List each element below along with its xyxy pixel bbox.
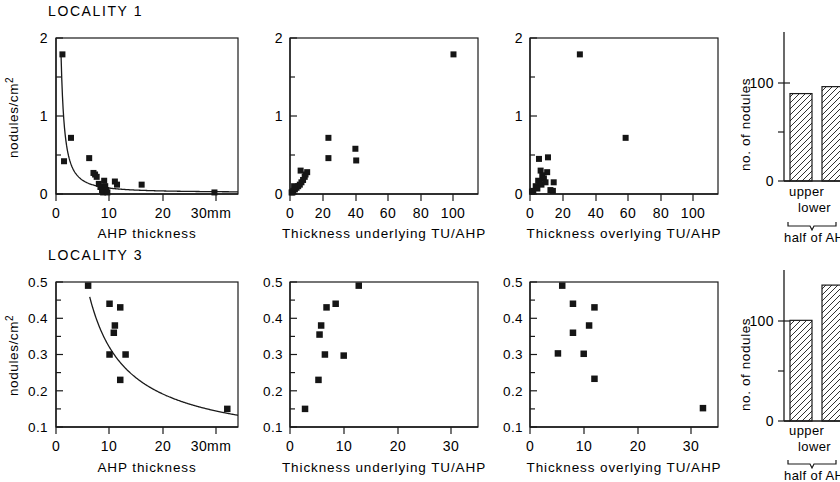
data-point — [224, 406, 231, 413]
data-point — [577, 51, 583, 57]
y-axis-loc3-underlying: 0.5 0.4 0.3 0.2 0.1 — [263, 275, 297, 435]
bar-category-upper-loc3: upper — [789, 423, 825, 438]
locality-3-title-svg: LOCALITY 3 — [0, 244, 300, 270]
data-point — [700, 405, 707, 412]
data-point — [86, 155, 92, 161]
ytick-loc3-overlying-0: 0.1 — [503, 420, 523, 435]
plot-frame-loc1-overlying — [530, 38, 718, 194]
data-point — [352, 146, 358, 152]
xtick-loc3-underlying-2: 20 — [390, 438, 406, 454]
locality-3-title: LOCALITY 3 — [48, 247, 143, 263]
y-axis-label-exponent: 2 — [4, 315, 15, 321]
ytick-loc3-overlying-4: 0.5 — [503, 275, 523, 290]
data-point — [332, 301, 339, 308]
xtick-loc1-underlying-2: 40 — [348, 205, 364, 221]
bar-group-label-loc1: half of AHP — [784, 230, 840, 245]
xtick-loc1-overlying-3: 60 — [620, 205, 636, 221]
data-point — [450, 51, 456, 57]
ytick-loc3-overlying-1: 0.2 — [503, 384, 523, 399]
y-axis-loc1-underlying: 2 1 0 — [275, 30, 297, 202]
xtick-loc1-overlying-4: 80 — [653, 205, 669, 221]
plot-frame-loc1-underlying — [290, 38, 478, 194]
data-point — [591, 304, 598, 311]
panel-loc1-bars: 100 0 no. of nodules upper lower half of… — [736, 26, 840, 241]
data-point — [325, 155, 331, 161]
data-point — [316, 331, 323, 338]
data-point — [68, 135, 74, 141]
fit-curve-loc1-ahp — [61, 56, 238, 191]
panel-loc1-overlying: 2 1 0 0 20 40 60 80 100 Thickness overly… — [496, 26, 740, 241]
plot-frame-loc3-ahp — [56, 282, 238, 427]
xtick-loc1-ahp-0: 0 — [52, 205, 60, 221]
y-axis-loc1-overlying: 2 1 0 — [515, 30, 537, 202]
ytick-loc3-overlying-3: 0.4 — [503, 311, 523, 326]
y-axis-loc3-bars: 100 0 no. of nodules — [738, 270, 790, 429]
ytick-loc1-overlying-0: 0 — [515, 186, 523, 202]
data-point — [570, 301, 577, 308]
y-axis-label-loc3-ahp: nodules/cm2 — [4, 315, 21, 396]
data-point — [122, 351, 129, 358]
ytick-loc3-underlying-2: 0.3 — [263, 347, 283, 362]
xtick-loc1-overlying-0: 0 — [526, 205, 534, 221]
xtick-loc3-overlying-2: 20 — [630, 438, 646, 454]
data-point — [101, 178, 107, 184]
panel-loc3-bars: 100 0 no. of nodules upper lower half of… — [736, 258, 840, 482]
ytick-loc3-ahp-4: 0.5 — [28, 275, 48, 290]
bar-group-bracket-loc1 — [788, 222, 836, 230]
data-point — [570, 330, 577, 337]
data-point — [555, 350, 562, 357]
ytick-loc1-ahp-2: 2 — [40, 30, 48, 46]
x-axis-loc1-overlying: 0 20 40 60 80 100 — [526, 194, 718, 221]
ytick-loc1-overlying-2: 2 — [515, 30, 523, 46]
xtick-loc1-underlying-4: 80 — [413, 205, 429, 221]
xtick-loc1-ahp-1: 10 — [101, 205, 117, 221]
ytick-loc1-bars-100: 100 — [749, 75, 774, 91]
y-axis-label-main: nodules/cm — [6, 321, 21, 396]
data-point — [318, 322, 325, 329]
panel-loc1-underlying: 2 1 0 0 20 40 60 80 100 Thickness underl… — [256, 26, 496, 241]
y-axis-label-loc1-bars: no. of nodules — [738, 78, 753, 171]
xtick-loc1-overlying-5: 100 — [681, 205, 706, 221]
xtick-loc3-ahp-3: 30mm — [191, 438, 232, 454]
xtick-loc1-underlying-5: 100 — [441, 205, 466, 221]
x-axis-loc1-ahp: 0 10 20 30mm — [52, 194, 238, 221]
data-point — [61, 158, 67, 164]
data-point — [356, 282, 363, 289]
plot-frame-loc1-ahp — [56, 38, 238, 194]
bar-category-lower-loc3: lower — [798, 439, 831, 454]
data-point — [117, 304, 124, 311]
data-point — [559, 282, 566, 289]
x-axis-loc3-ahp: 0 10 20 30mm — [52, 427, 238, 454]
data-markers-loc1-underlying — [289, 51, 457, 195]
bar-category-lower-loc1: lower — [798, 200, 831, 215]
data-markers-loc3-overlying — [555, 282, 707, 411]
xtick-loc1-ahp-2: 20 — [155, 205, 171, 221]
ytick-loc1-underlying-0: 0 — [275, 186, 283, 202]
xtick-loc3-overlying-1: 10 — [576, 438, 592, 454]
y-axis-label-loc1-ahp: nodules/cm2 — [4, 77, 21, 158]
ytick-loc3-ahp-2: 0.3 — [28, 347, 48, 362]
data-point — [112, 322, 119, 329]
data-markers-loc1-ahp — [59, 51, 217, 195]
data-markers-loc3-underlying — [302, 282, 362, 412]
figure-root: LOCALITY 1 2 1 0 0 10 20 30mm — [0, 0, 840, 482]
data-point — [117, 377, 124, 384]
y-axis-loc3-overlying: 0.5 0.4 0.3 0.2 0.1 — [503, 275, 537, 435]
ytick-loc3-overlying-2: 0.3 — [503, 347, 523, 362]
data-point — [111, 330, 118, 337]
xtick-loc3-overlying-0: 0 — [526, 438, 534, 454]
data-point — [315, 377, 322, 384]
xtick-loc3-ahp-2: 20 — [155, 438, 171, 454]
data-point — [104, 189, 110, 195]
ytick-loc3-underlying-1: 0.2 — [263, 384, 283, 399]
x-axis-loc3-underlying: 0 10 20 30 — [286, 427, 478, 454]
data-markers-loc1-overlying — [529, 51, 629, 194]
data-point — [85, 282, 92, 289]
data-point — [591, 376, 598, 383]
locality-1-title: LOCALITY 1 — [48, 3, 143, 19]
bar-category-upper-loc1: upper — [789, 184, 825, 199]
data-point — [289, 189, 295, 195]
data-point — [545, 154, 551, 160]
y-axis-label-loc3-bars: no. of nodules — [738, 318, 753, 411]
ytick-loc3-ahp-1: 0.2 — [28, 384, 48, 399]
